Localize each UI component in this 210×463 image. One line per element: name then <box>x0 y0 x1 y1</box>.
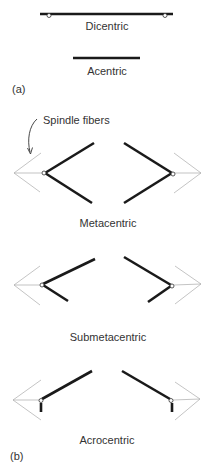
submetacentric-label: Submetacentric <box>70 331 146 344</box>
centromere-icon <box>171 172 175 176</box>
centromere-icon <box>42 171 46 175</box>
submetacentric-chromosome-left <box>14 259 95 305</box>
acrocentric-chromosome-left <box>13 371 92 420</box>
spindle-fibers-label: Spindle fibers <box>43 114 110 127</box>
centromere-icon <box>169 399 173 403</box>
metacentric-label: Metacentric <box>80 217 137 230</box>
acentric-label: Acentric <box>87 65 127 78</box>
panel-label-b: (b) <box>10 450 23 463</box>
dicentric-chromosome <box>40 14 173 18</box>
centromere-icon <box>40 283 44 287</box>
dicentric-label: Dicentric <box>86 20 129 33</box>
centromere-icon <box>47 14 51 18</box>
metacentric-chromosome-right <box>124 143 201 203</box>
submetacentric-chromosome-right <box>124 257 201 304</box>
metacentric-chromosome-left <box>14 143 94 203</box>
acrocentric-chromosome-right <box>122 371 200 420</box>
panel-label-a: (a) <box>12 83 25 96</box>
centromere-icon <box>170 284 174 288</box>
spindle-arrow-icon <box>29 119 37 152</box>
acrocentric-label: Acrocentric <box>79 434 134 447</box>
centromere-icon <box>163 14 167 18</box>
centromere-icon <box>39 399 43 403</box>
